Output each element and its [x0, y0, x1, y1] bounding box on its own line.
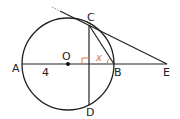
label-O: O	[62, 50, 71, 63]
tangent-extension-dashed	[52, 7, 60, 11]
right-angle-marker	[82, 58, 89, 64]
length-label-AO: 4	[42, 66, 49, 79]
label-B: B	[114, 66, 122, 79]
angle-label-x: x	[95, 52, 102, 63]
angle-x-arc	[107, 58, 110, 64]
geometry-figure: A O B E C D 4 x	[0, 0, 180, 119]
label-E: E	[163, 66, 170, 79]
label-D: D	[86, 106, 94, 119]
diagram-canvas: A O B E C D 4 x	[0, 0, 180, 119]
label-A: A	[12, 62, 20, 75]
label-C: C	[87, 11, 95, 24]
